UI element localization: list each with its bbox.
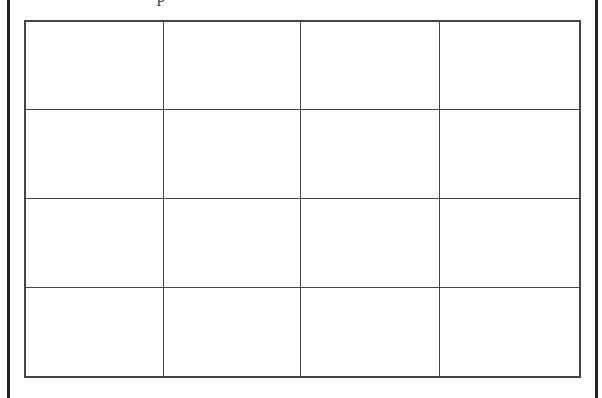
table-cell (26, 199, 164, 288)
table-cell (26, 22, 164, 110)
table-cell (440, 199, 579, 288)
table-cell (301, 288, 440, 376)
empty-table-grid (24, 20, 581, 378)
page-border-left (7, 0, 10, 398)
table-cell (301, 110, 440, 199)
table-cell (26, 288, 164, 376)
table-cell (164, 110, 301, 199)
table-cell (440, 22, 579, 110)
table-cell (164, 288, 301, 376)
table-cell (440, 288, 579, 376)
table-cell (301, 22, 440, 110)
table-cell (164, 22, 301, 110)
table-cell (26, 110, 164, 199)
table-cell (164, 199, 301, 288)
table-cell (440, 110, 579, 199)
page-border-right (595, 0, 598, 398)
cutoff-heading-text: p (157, 0, 165, 5)
table-cell (301, 199, 440, 288)
